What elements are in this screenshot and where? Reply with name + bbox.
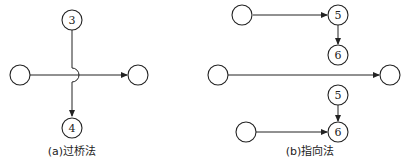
diagram: 3 4 (a)过桥法 5 6 5 6 (b)指向法: [0, 0, 412, 163]
node-left: [10, 65, 30, 85]
node-5-bottom-label: 5: [335, 89, 342, 102]
node-6-bottom-label: 6: [335, 126, 342, 139]
node-top-left: [232, 5, 252, 25]
network-diagram: 3 4 (a)过桥法 5 6 5 6 (b)指向法: [0, 0, 412, 163]
node-mid-left: [208, 65, 228, 85]
node-mid-right: [380, 65, 400, 85]
caption-a: (a)过桥法: [48, 144, 96, 158]
node-3-label: 3: [69, 14, 76, 27]
node-right: [128, 65, 148, 85]
node-6-top-label: 6: [335, 49, 342, 62]
node-bottom-left: [236, 122, 256, 142]
caption-b: (b)指向法: [286, 144, 335, 158]
panel-a-bridge-method: 3 4 (a)过桥法: [10, 10, 148, 158]
node-4-label: 4: [69, 122, 76, 135]
node-5-top-label: 5: [335, 9, 342, 22]
panel-b-pointer-method: 5 6 5 6 (b)指向法: [208, 5, 400, 158]
